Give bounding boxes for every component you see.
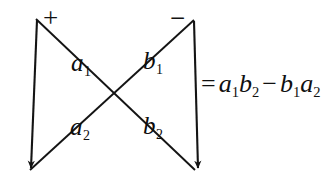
- figure-canvas: + − a1 b1 a2 b2 =a1b2−b1a2: [0, 0, 333, 180]
- eq-term1-second-base: b: [239, 69, 252, 98]
- diagonal-a2-b1: [30, 20, 194, 170]
- eq-term2-first-base: b: [280, 69, 293, 98]
- label-b2: b2: [143, 113, 163, 138]
- eq-term2-second-base: a: [300, 69, 313, 98]
- minus-sign: −: [170, 5, 185, 32]
- label-a1: a1: [71, 50, 91, 75]
- eq-term1-second-sub: 2: [252, 84, 259, 100]
- label-a2: a2: [70, 114, 90, 139]
- label-a2-base: a: [70, 113, 83, 140]
- label-b1-subscript: 1: [156, 62, 163, 77]
- determinant-equation: =a1b2−b1a2: [198, 71, 320, 97]
- eq-term2-second-sub: 2: [313, 84, 320, 100]
- label-b2-base: b: [143, 112, 156, 139]
- eq-term2-first-sub: 1: [293, 84, 300, 100]
- label-b2-subscript: 2: [156, 127, 163, 142]
- equals-sign: =: [198, 69, 219, 98]
- label-b1-base: b: [143, 47, 156, 74]
- label-b1: b1: [143, 48, 163, 73]
- label-a2-subscript: 2: [83, 128, 90, 143]
- eq-term1-first-sub: 1: [232, 84, 239, 100]
- label-a1-subscript: 1: [84, 64, 91, 79]
- label-a1-base: a: [71, 49, 84, 76]
- eq-term1-first-base: a: [219, 69, 232, 98]
- left-vertical-arrow: [31, 20, 37, 168]
- plus-sign: +: [43, 5, 58, 32]
- eq-operator: −: [259, 69, 280, 98]
